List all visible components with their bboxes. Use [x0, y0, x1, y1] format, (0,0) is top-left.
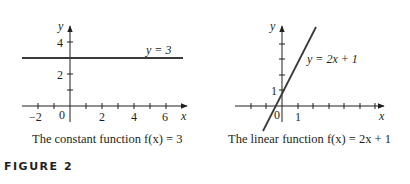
- linear-function-graph: y x 0 1 1 y = 2x + 1: [235, 19, 385, 131]
- constant-function-graph: y x 0 −2 2 4 6 2 4 y = 3: [22, 19, 187, 124]
- tick-label-6: 6: [162, 110, 168, 124]
- y-tick-label-2: 2: [57, 68, 63, 82]
- tick-label-4: 4: [131, 110, 137, 124]
- tick-label-1: 1: [295, 110, 301, 124]
- x-axis-label: x: [378, 109, 385, 123]
- line-label-2x-plus-1: y = 2x + 1: [306, 52, 358, 66]
- figure-label: FIGURE 2: [4, 160, 73, 173]
- function-line-2x-plus-1: [263, 27, 316, 131]
- y-tick-label-1: 1: [271, 84, 277, 98]
- y-axis-label: y: [57, 19, 64, 33]
- line-label-y3: y = 3: [145, 43, 171, 57]
- y-axis-label: y: [269, 19, 276, 33]
- origin-label: 0: [59, 108, 65, 122]
- tick-label-2: 2: [99, 110, 105, 124]
- tick-label-neg2: −2: [29, 110, 42, 124]
- x-axis-label: x: [180, 109, 187, 123]
- figure-graphs: y x 0 −2 2 4 6 2 4 y = 3 y: [0, 0, 410, 184]
- origin-label: 0: [274, 108, 280, 122]
- y-tick-label-4: 4: [57, 36, 63, 50]
- caption-linear-function: The linear function f(x) = 2x + 1: [228, 132, 391, 147]
- caption-constant-function: The constant function f(x) = 3: [32, 132, 182, 147]
